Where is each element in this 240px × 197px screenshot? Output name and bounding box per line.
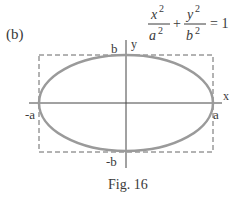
y-axis-label: y	[131, 37, 137, 51]
eq-exp-4: 2	[195, 25, 200, 36]
x-axis-label: x	[223, 89, 229, 103]
intercept-neg-x: -a	[25, 107, 35, 122]
eq-term2-denominator: b	[186, 28, 193, 43]
eq-plus: +	[173, 16, 181, 31]
eq-exp-1: 2	[159, 3, 164, 14]
eq-exp-2: 2	[158, 25, 163, 36]
panel-label: (b)	[6, 26, 24, 43]
ellipse-diagram: (b) y x b -b -a a x 2 a 2 + y 2 b 2 = 1 …	[0, 0, 240, 197]
figure-caption: Fig. 16	[108, 177, 148, 192]
intercept-pos-y: b	[111, 41, 118, 56]
eq-exp-3: 2	[195, 3, 200, 14]
intercept-neg-y: -b	[106, 154, 117, 169]
eq-term1-numerator: x	[150, 7, 158, 22]
ellipse-equation: x 2 a 2 + y 2 b 2 = 1	[148, 3, 228, 43]
intercept-pos-x: a	[213, 107, 219, 122]
eq-term2-numerator: y	[185, 7, 194, 22]
eq-term1-denominator: a	[149, 28, 156, 43]
eq-equals: = 1	[210, 16, 228, 31]
